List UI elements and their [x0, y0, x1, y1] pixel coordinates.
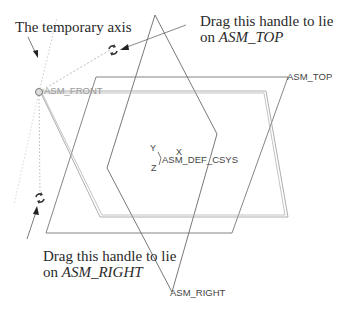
arrowhead-temporary-axis [33, 50, 38, 58]
diagram-canvas: The temporary axis Drag this handle to l… [0, 0, 338, 310]
callout-right-handle-line1: Drag this handle to lie [43, 248, 176, 264]
csys-y-label: Y [150, 143, 156, 153]
callout-top-handle-line1: Drag this handle to lie [200, 13, 333, 29]
label-asm-front[interactable]: ASM_FRONT [44, 85, 103, 96]
callout-top-handle-line2: on ASM_TOP [200, 29, 333, 45]
leader-right-handle [27, 212, 36, 239]
callout-top-ref: ASM_TOP [219, 29, 284, 45]
label-asm-top[interactable]: ASM_TOP [287, 71, 332, 82]
handle-guide-right [39, 92, 40, 195]
arrowhead-right-handle [33, 206, 39, 215]
temporary-axis-line-lower [14, 92, 39, 205]
callout-right-handle-line2: on ASM_RIGHT [43, 264, 176, 280]
csys-z-label: Z [151, 163, 157, 173]
callout-right-handle: Drag this handle to lie on ASM_RIGHT [43, 248, 176, 280]
label-asm-def-csys[interactable]: ASM_DEF_CSYS [162, 154, 238, 165]
callout-top-handle: Drag this handle to lie on ASM_TOP [200, 13, 333, 45]
axis-origin-handle-icon[interactable] [36, 89, 43, 96]
callout-top-prefix: on [200, 29, 219, 45]
callout-right-ref: ASM_RIGHT [62, 264, 143, 280]
csys-y-axis [158, 152, 161, 158]
rotate-handle-right-icon[interactable] [36, 192, 44, 204]
label-asm-right[interactable]: ASM_RIGHT [170, 287, 225, 298]
csys-z-axis [159, 158, 161, 165]
arrowhead-top-handle [120, 44, 129, 50]
callout-right-prefix: on [43, 264, 62, 280]
leader-top-handle [127, 25, 186, 47]
rotate-handle-top-icon[interactable] [109, 44, 117, 56]
callout-temporary-axis: The temporary axis [15, 19, 132, 35]
